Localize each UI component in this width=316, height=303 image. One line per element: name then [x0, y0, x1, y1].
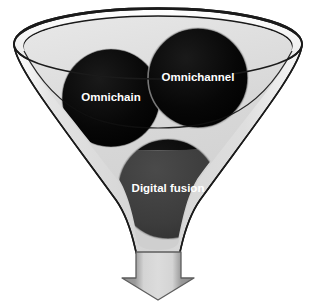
down-arrow-shape: [122, 252, 194, 300]
funnel-diagram: Omnichain Omnichannel Digital fusion: [0, 0, 316, 303]
label-digital-fusion: Digital fusion: [132, 182, 205, 194]
label-omnichain: Omnichain: [81, 91, 140, 103]
down-arrow: [122, 252, 194, 300]
label-omnichannel: Omnichannel: [162, 71, 235, 83]
diagram-canvas: Omnichain Omnichannel Digital fusion: [0, 0, 316, 303]
